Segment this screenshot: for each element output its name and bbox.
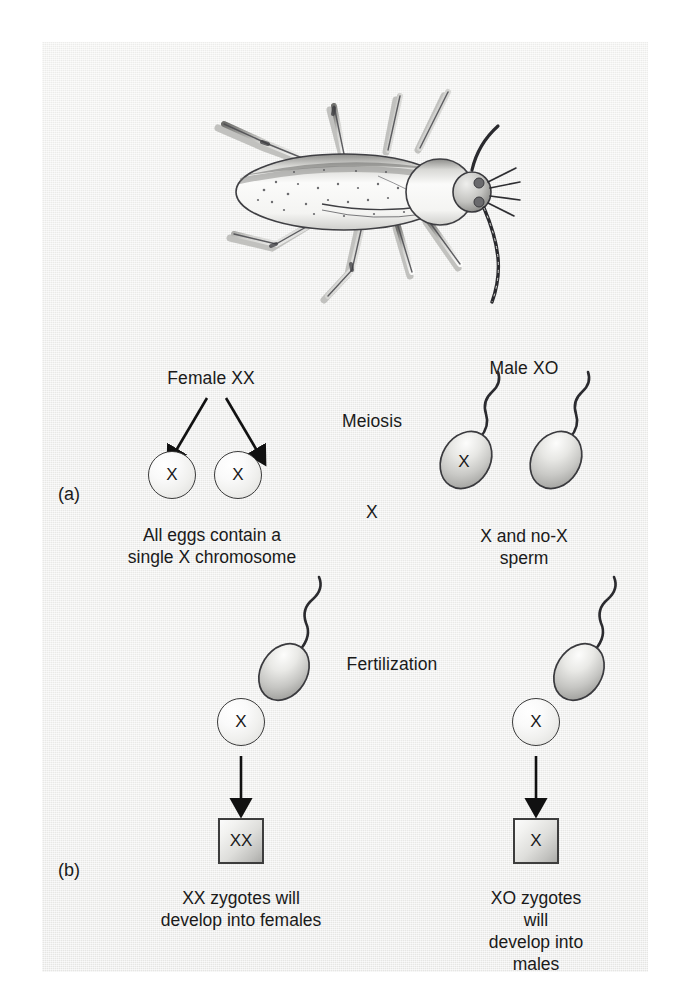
sperm-cell-no-x xyxy=(512,372,632,502)
zygote-caption-female: XX zygotes will develop into females xyxy=(161,887,322,931)
zygote-arrow xyxy=(233,754,253,824)
zygote-genotype-label: XX xyxy=(230,831,253,851)
meiosis-label: Meiosis xyxy=(342,411,402,432)
egg-cell: X xyxy=(214,451,262,499)
male-gamete-caption: X and no-X sperm xyxy=(462,525,586,569)
egg-chromosome-label: X xyxy=(232,465,243,485)
sperm-cell-no-x-fertilizing xyxy=(537,582,667,722)
figure-panel-background: (a) Female XX X X All eggs contain a sin… xyxy=(42,42,648,972)
panel-letter-a: (a) xyxy=(58,484,80,504)
egg-chromosome-label: X xyxy=(530,712,541,732)
zygote-arrow xyxy=(528,754,548,824)
figure-xo-sex-determination: (a) Female XX X X All eggs contain a sin… xyxy=(0,0,685,1006)
cross-symbol: X xyxy=(366,502,378,523)
female-genotype-label: Female XX xyxy=(167,368,254,389)
zygote-box-xo: X xyxy=(513,818,559,864)
zygote-genotype-label: X xyxy=(530,831,541,851)
egg-cell-fertilized: X xyxy=(217,698,265,746)
zygote-box-xx: XX xyxy=(218,818,264,864)
insect-illustration xyxy=(172,52,522,317)
zygote-caption-male: XO zygotes will develop into males xyxy=(480,887,592,975)
sperm-cell-x-fertilizing xyxy=(242,582,372,722)
female-gamete-caption: All eggs contain a single X chromosome xyxy=(128,524,296,568)
egg-chromosome-label: X xyxy=(235,712,246,732)
svg-text:X: X xyxy=(458,452,469,471)
panel-letter-b: (b) xyxy=(58,860,80,880)
egg-cell: X xyxy=(148,451,196,499)
egg-cell-fertilized: X xyxy=(512,698,560,746)
egg-chromosome-label: X xyxy=(166,465,177,485)
